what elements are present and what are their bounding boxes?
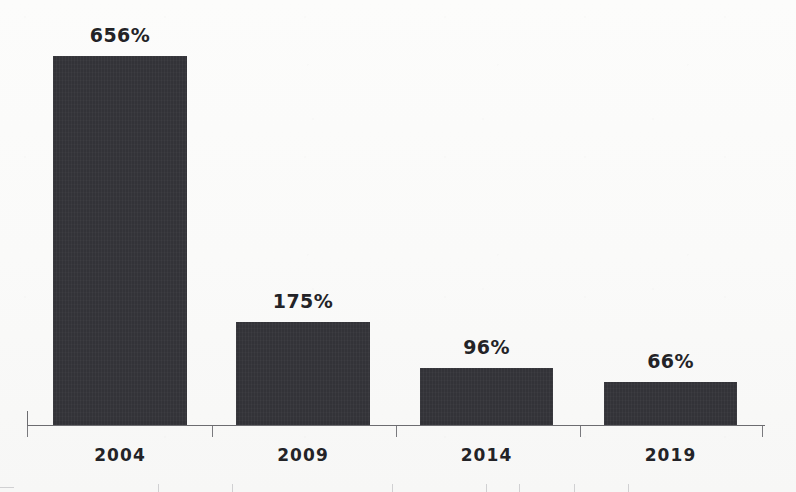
value-label-2009: 175%	[236, 290, 370, 312]
x-axis-tick-4	[762, 426, 763, 437]
category-label-2014: 2014	[420, 445, 553, 465]
category-label-2004: 2004	[53, 445, 187, 465]
value-label-2014: 96%	[420, 336, 553, 358]
scan-artifact	[486, 484, 487, 492]
scan-artifact	[392, 484, 393, 492]
scan-artifact	[574, 484, 575, 492]
scan-artifact	[519, 484, 520, 492]
category-label-2019: 2019	[604, 445, 737, 465]
category-label-2009: 2009	[236, 445, 370, 465]
value-label-2019: 66%	[604, 350, 737, 372]
plot-area: 656% 175% 96% 66% 2004 2009 2014 2019	[0, 0, 796, 492]
scan-artifact	[628, 484, 629, 492]
bar-2009	[236, 322, 370, 425]
y-axis-line	[27, 411, 28, 426]
bar-2004	[53, 56, 187, 425]
value-label-2004: 656%	[53, 24, 187, 46]
x-axis-tick-2	[396, 426, 397, 437]
x-axis-tick-0	[27, 426, 28, 437]
scan-artifact	[158, 484, 159, 492]
bar-2014	[420, 368, 553, 425]
bar-chart: 656% 175% 96% 66% 2004 2009 2014 2019	[0, 0, 796, 492]
x-axis-tick-3	[580, 426, 581, 437]
scan-artifact	[232, 484, 233, 492]
x-axis-tick-1	[212, 426, 213, 437]
scan-artifact	[0, 487, 14, 488]
bar-2019	[604, 382, 737, 425]
